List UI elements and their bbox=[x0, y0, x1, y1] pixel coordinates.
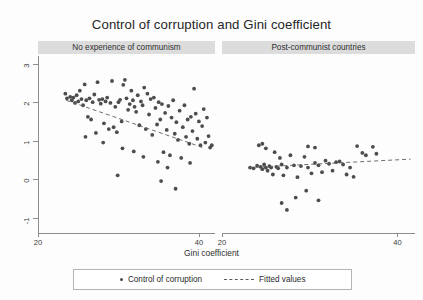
scatter-point bbox=[364, 153, 368, 157]
scatter-point bbox=[280, 163, 284, 167]
scatter-point bbox=[146, 92, 150, 96]
scatter-point bbox=[75, 93, 79, 97]
x-tick-right-40 bbox=[397, 233, 398, 237]
scatter-point bbox=[92, 93, 96, 97]
scatter-point bbox=[80, 97, 84, 101]
scatter-point bbox=[65, 96, 69, 100]
scatter-point bbox=[296, 175, 300, 179]
x-tick-label-left-40: 40 bbox=[187, 238, 211, 247]
scatter-point bbox=[280, 201, 284, 205]
scatter-point bbox=[107, 127, 111, 131]
scatter-point bbox=[200, 124, 204, 128]
scatter-point bbox=[266, 169, 270, 173]
scatter-point bbox=[104, 100, 108, 104]
scatter-point bbox=[278, 156, 282, 160]
scatter-point bbox=[341, 163, 345, 167]
scatter-point bbox=[97, 98, 101, 102]
x-tick-label-left-20: 20 bbox=[26, 238, 50, 247]
legend-entry-fit: Fitted values bbox=[224, 275, 305, 284]
scatter-point bbox=[184, 135, 188, 139]
scatter-point bbox=[257, 143, 261, 147]
x-axis-line-right bbox=[222, 233, 415, 234]
scatter-point bbox=[91, 100, 95, 104]
scatter-point bbox=[320, 170, 324, 174]
figure-root: Control of corruption and Gini coefficie… bbox=[0, 0, 423, 300]
scatter-point bbox=[121, 83, 125, 87]
scatter-point bbox=[205, 116, 209, 120]
scatter-point bbox=[142, 86, 146, 90]
scatter-point bbox=[133, 105, 137, 109]
y-tick-label-1: 1 bbox=[22, 140, 31, 158]
scatter-point bbox=[113, 105, 117, 109]
scatter-point bbox=[191, 129, 195, 133]
y-tick-label-2: 2 bbox=[22, 102, 31, 120]
scatter-point bbox=[317, 198, 321, 202]
scatter-point bbox=[260, 142, 264, 146]
scatter-point bbox=[139, 100, 143, 104]
scatter-point bbox=[285, 208, 289, 212]
scatter-point bbox=[134, 110, 138, 114]
scatter-point bbox=[203, 141, 207, 145]
scatter-point bbox=[355, 144, 359, 148]
scatter-point bbox=[89, 118, 93, 122]
scatter-plot-left bbox=[38, 56, 215, 233]
scatter-point bbox=[126, 108, 130, 112]
scatter-point bbox=[166, 166, 170, 170]
y-tick-label-3: 3 bbox=[22, 63, 31, 81]
scatter-point bbox=[352, 175, 356, 179]
x-tick-label-right-20: 20 bbox=[210, 238, 234, 247]
scatter-point bbox=[121, 146, 125, 150]
scatter-point bbox=[118, 98, 122, 102]
scatter-point bbox=[282, 173, 286, 177]
x-axis-line-left bbox=[38, 233, 215, 234]
scatter-point bbox=[195, 137, 199, 141]
scatter-point bbox=[310, 171, 314, 175]
scatter-point bbox=[273, 150, 277, 154]
scatter-point bbox=[109, 101, 113, 105]
scatter-point bbox=[186, 118, 190, 122]
scatter-point bbox=[306, 166, 310, 170]
scatter-point bbox=[125, 96, 129, 100]
scatter-point bbox=[112, 125, 116, 129]
scatter-point bbox=[179, 156, 183, 160]
legend-label-scatter: Control of corruption bbox=[128, 275, 202, 284]
scatter-point bbox=[102, 121, 106, 125]
scatter-point bbox=[129, 89, 133, 93]
scatter-point bbox=[188, 161, 192, 165]
scatter-point bbox=[163, 111, 167, 115]
scatter-point bbox=[72, 96, 76, 100]
scatter-point bbox=[331, 169, 335, 173]
page-title: Control of corruption and Gini coefficie… bbox=[0, 17, 423, 32]
scatter-point bbox=[304, 189, 308, 193]
scatter-point bbox=[84, 135, 88, 139]
x-axis-title: Gini coefficient bbox=[0, 248, 423, 258]
scatter-point bbox=[289, 153, 293, 157]
scatter-point bbox=[183, 103, 187, 107]
scatter-point bbox=[197, 120, 201, 124]
scatter-point bbox=[166, 104, 170, 108]
scatter-point bbox=[123, 78, 127, 82]
scatter-point bbox=[264, 146, 268, 150]
scatter-point bbox=[160, 102, 164, 106]
scatter-point bbox=[159, 179, 163, 183]
scatter-point bbox=[276, 166, 280, 170]
panel-header-post-communist: Post-communist countries bbox=[222, 41, 415, 54]
scatter-point bbox=[142, 155, 146, 159]
dashed-line-marker-icon bbox=[224, 279, 254, 280]
scatter-point bbox=[100, 97, 104, 101]
scatter-point bbox=[348, 166, 352, 170]
x-tick-label-right-40: 40 bbox=[385, 238, 409, 247]
filled-circle-marker-icon bbox=[120, 278, 123, 281]
scatter-point bbox=[324, 159, 328, 163]
scatter-point bbox=[168, 153, 172, 157]
y-tick-label-0: 0 bbox=[22, 179, 31, 197]
scatter-point bbox=[202, 107, 206, 111]
scatter-point bbox=[147, 113, 151, 117]
scatter-point bbox=[165, 128, 169, 132]
scatter-point bbox=[78, 89, 82, 93]
scatter-point bbox=[76, 100, 80, 104]
scatter-point bbox=[189, 115, 193, 119]
scatter-point bbox=[375, 152, 379, 156]
scatter-point bbox=[63, 92, 67, 96]
scatter-point bbox=[96, 80, 100, 84]
